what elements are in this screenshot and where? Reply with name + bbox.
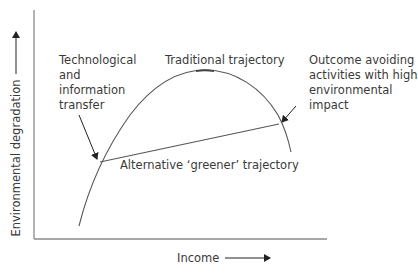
outcome-label: Outcome avoiding activities with high en… (309, 53, 418, 113)
alternative-trajectory-label: Alternative ‘greener’ trajectory (120, 158, 299, 173)
outcome-pointer-arrow-icon (282, 106, 296, 122)
tech-transfer-label: Technological and information transfer (59, 53, 136, 113)
x-axis-label: Income (177, 251, 219, 266)
traditional-trajectory-label: Traditional trajectory (165, 53, 285, 68)
curve-peak-highlight (196, 70, 214, 71)
alternative-trajectory-line (100, 124, 279, 162)
y-axis-label: Environmental degradation (9, 79, 23, 236)
tech-transfer-pointer-arrow-icon (79, 115, 97, 159)
